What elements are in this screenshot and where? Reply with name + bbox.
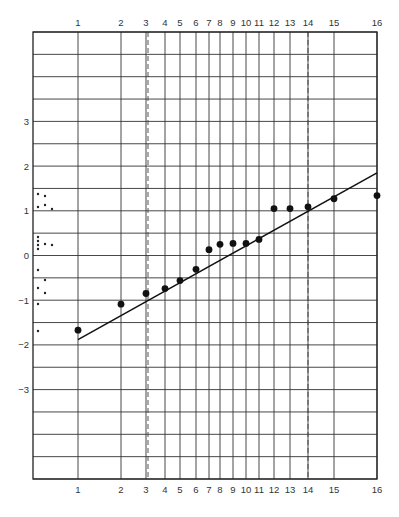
x-tick-labels-bottom: 12345678910111213141516 [75,484,382,495]
raw-value-dot [51,208,53,210]
y-tick-label: −3 [18,384,29,395]
x-tick-label: 14 [303,17,314,28]
raw-value-dot [44,195,46,197]
x-tick-label: 10 [241,484,252,495]
x-tick-label: 2 [118,17,123,28]
x-tick-label: 15 [329,17,340,28]
x-tick-label: 3 [143,484,148,495]
raw-value-dot [37,236,39,238]
data-point [287,205,294,212]
raw-value-dot [37,240,39,242]
x-tick-label: 4 [162,484,167,495]
x-tick-label: 6 [193,17,198,28]
x-tick-label: 16 [372,484,383,495]
y-tick-label: 2 [24,161,29,172]
raw-value-dot [37,330,39,332]
x-tick-label: 8 [217,484,222,495]
data-point [243,240,250,247]
raw-value-dot [37,193,39,195]
x-tick-label: 1 [75,484,80,495]
raw-value-dot [44,292,46,294]
y-tick-label: −2 [18,339,29,350]
raw-value-dot [37,248,39,250]
data-point [206,246,213,253]
x-tick-label: 5 [177,484,182,495]
data-point [331,195,338,202]
raw-value-dot [44,243,46,245]
x-tick-label: 1 [75,17,80,28]
raw-value-dot [37,206,39,208]
raw-value-dot [37,244,39,246]
data-point [193,266,200,273]
x-tick-label: 2 [118,484,123,495]
raw-value-dot [51,244,53,246]
data-point [143,290,150,297]
x-tick-label: 16 [372,17,383,28]
data-point [271,205,278,212]
x-tick-label: 11 [254,17,264,28]
x-tick-label: 14 [303,484,314,495]
x-tick-label: 5 [177,17,182,28]
raw-value-dots [37,193,53,332]
y-tick-label: −1 [18,295,29,306]
data-point [177,277,184,284]
raw-value-dot [44,279,46,281]
x-tick-label: 12 [269,17,280,28]
x-tick-labels-top: 12345678910111213141516 [75,17,382,28]
horizontal-gridlines [33,32,377,479]
x-tick-label: 8 [217,17,222,28]
x-tick-label: 11 [254,484,264,495]
x-tick-label: 15 [329,484,340,495]
raw-value-dot [37,303,39,305]
x-tick-label: 10 [241,17,252,28]
data-point [256,236,263,243]
raw-value-dot [37,287,39,289]
y-tick-label: 0 [24,250,29,261]
data-points [75,192,381,333]
x-tick-label: 3 [143,17,148,28]
x-tick-label: 9 [230,17,235,28]
data-point [75,327,82,334]
x-tick-label: 12 [269,484,280,495]
x-tick-label: 7 [206,17,211,28]
data-point [162,285,169,292]
x-tick-label: 7 [206,484,211,495]
x-tick-label: 9 [230,484,235,495]
data-point [305,203,312,210]
normal-probability-plot: 12345678910111213141516 1234567891011121… [0,0,399,517]
data-point [118,301,125,308]
raw-value-dot [37,269,39,271]
data-point [374,192,381,199]
y-tick-labels: 3210−1−2−3 [18,116,29,395]
y-tick-label: 3 [24,116,29,127]
x-tick-label: 4 [162,17,167,28]
y-tick-label: 1 [24,205,29,216]
x-tick-label: 13 [285,484,296,495]
data-point [230,240,237,247]
x-tick-label: 13 [285,17,296,28]
raw-value-dot [44,204,46,206]
data-point [217,241,224,248]
x-tick-label: 6 [193,484,198,495]
